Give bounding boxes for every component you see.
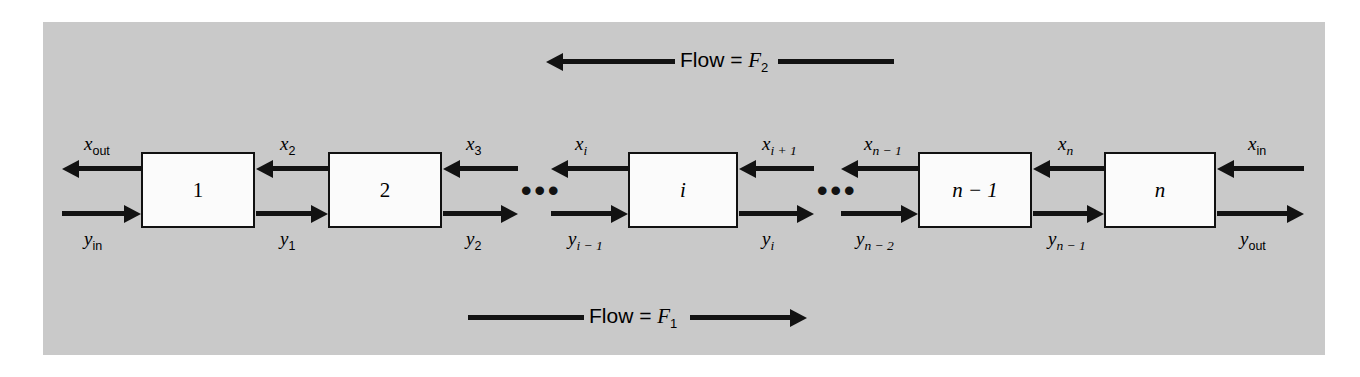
label-x-in-sub: in — [1256, 144, 1266, 158]
label-y-in: yin — [84, 228, 102, 253]
label-x-out: xout — [84, 133, 110, 158]
label-x-2-sub: 2 — [288, 144, 295, 158]
y-i-line — [739, 211, 797, 216]
stage-box-2[interactable]: 2 — [328, 152, 442, 228]
label-x-i-plus-1-sub: i + 1 — [770, 143, 796, 158]
label-y-1: y1 — [280, 228, 295, 253]
top-flow-symbol: F — [748, 48, 761, 72]
label-x-n-minus-1: xn − 1 — [864, 133, 902, 159]
y-in-arrowhead — [124, 205, 141, 223]
x-out-line — [79, 166, 141, 171]
stage-box-1[interactable]: 1 — [141, 152, 255, 228]
y-2-arrowhead — [501, 205, 518, 223]
top-flow-line-right — [778, 59, 894, 64]
bottom-flow-subscript: 1 — [670, 316, 677, 331]
label-y-n-minus-1: yn − 1 — [1048, 228, 1086, 254]
label-y-out-sub: out — [1248, 239, 1265, 253]
x-3-arrowhead — [443, 160, 460, 178]
ellipsis-right-icon: ••• — [817, 176, 858, 206]
x-2-arrowhead — [256, 160, 273, 178]
y-in-line — [62, 211, 124, 216]
x-out-arrowhead — [62, 160, 79, 178]
label-y-2: y2 — [466, 228, 481, 253]
label-x-in: xin — [1248, 133, 1266, 158]
label-y-out: yout — [1240, 228, 1266, 253]
bottom-flow-line-right — [690, 315, 790, 320]
label-x-n-minus-1-sub: n − 1 — [872, 143, 901, 158]
label-x-i: xi — [575, 133, 587, 159]
bottom-flow-label: Flow = F1 — [589, 304, 677, 331]
label-x-2: x2 — [280, 133, 295, 158]
y-n-minus-2-line — [841, 211, 901, 216]
top-flow-label: Flow = F2 — [680, 48, 768, 75]
stage-box-n-1[interactable]: n − 1 — [918, 152, 1032, 228]
label-y-in-sub: in — [92, 239, 102, 253]
y-out-line — [1217, 211, 1287, 216]
x-i-arrowhead — [551, 160, 568, 178]
ellipsis-left-icon: ••• — [521, 176, 562, 206]
y-i-arrowhead — [797, 205, 814, 223]
x-n-line — [1050, 166, 1104, 171]
x-n-arrowhead — [1033, 160, 1050, 178]
label-y-n-minus-1-sub: n − 1 — [1056, 238, 1085, 253]
x-i-line — [568, 166, 628, 171]
bottom-flow-line-left — [468, 315, 584, 320]
label-y-i-minus-1-sub: i − 1 — [576, 238, 602, 253]
label-x-i-plus-1: xi + 1 — [762, 133, 797, 159]
x-in-arrowhead — [1217, 160, 1234, 178]
y-i-minus-1-arrowhead — [611, 205, 628, 223]
top-flow-line-left — [563, 59, 675, 64]
label-y-2-sub: 2 — [474, 239, 481, 253]
label-x-i-sub: i — [583, 143, 587, 158]
top-flow-subscript: 2 — [761, 60, 768, 75]
label-x-3: x3 — [466, 133, 481, 158]
stage-box-n[interactable]: n — [1104, 152, 1216, 228]
label-x-n: xn — [1058, 133, 1073, 159]
y-n-minus-1-arrowhead — [1087, 205, 1104, 223]
stage-box-i[interactable]: i — [628, 152, 738, 228]
label-x-3-sub: 3 — [474, 144, 481, 158]
y-n-minus-2-arrowhead — [901, 205, 918, 223]
y-1-arrowhead — [311, 205, 328, 223]
x-i-plus-1-line — [756, 166, 814, 171]
label-y-n-minus-2-sub: n − 2 — [864, 238, 893, 253]
x-2-line — [273, 166, 328, 171]
label-x-out-sub: out — [92, 144, 109, 158]
label-y-i: yi — [762, 228, 774, 254]
label-x-n-sub: n — [1066, 143, 1073, 158]
y-i-minus-1-line — [551, 211, 611, 216]
bottom-flow-arrowhead — [790, 309, 807, 327]
label-y-1-sub: 1 — [288, 239, 295, 253]
label-y-i-minus-1: yi − 1 — [568, 228, 603, 254]
x-n-minus-1-arrowhead — [841, 160, 858, 178]
x-3-line — [460, 166, 518, 171]
x-i-plus-1-arrowhead — [739, 160, 756, 178]
cascade-figure: Flow = F2 Flow = F1 1 2 i n − 1 n ••• ••… — [0, 0, 1360, 377]
y-2-line — [443, 211, 501, 216]
y-out-arrowhead — [1287, 205, 1304, 223]
y-n-minus-1-line — [1033, 211, 1087, 216]
top-flow-label-text: Flow = — [680, 48, 748, 71]
bottom-flow-symbol: F — [657, 304, 670, 328]
y-1-line — [256, 211, 311, 216]
label-y-n-minus-2: yn − 2 — [856, 228, 894, 254]
top-flow-arrowhead — [546, 53, 563, 71]
bottom-flow-label-text: Flow = — [589, 304, 657, 327]
label-y-i-sub: i — [770, 238, 774, 253]
x-in-line — [1234, 166, 1304, 171]
x-n-minus-1-line — [858, 166, 918, 171]
